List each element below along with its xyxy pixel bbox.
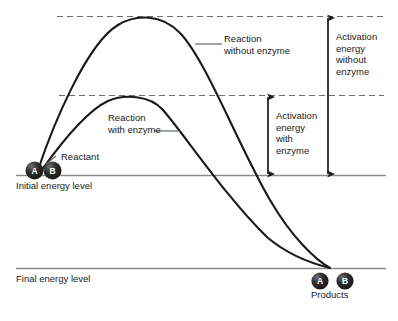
label-final-energy-level: Final energy level xyxy=(16,273,90,285)
enzyme-energy-diagram: A B A B Reaction without enzyme Reaction… xyxy=(0,0,398,321)
label-initial-energy-level: Initial energy level xyxy=(16,180,92,192)
transition-state-dashed-lines xyxy=(57,17,384,96)
product-molecule-b-label: B xyxy=(342,276,348,286)
label-activation-energy-without-enzyme: Activation energy without enzyme xyxy=(336,31,377,77)
reactant-molecule-b-label: B xyxy=(49,166,55,176)
product-molecules: A B xyxy=(311,272,353,289)
reactant-molecule-a-label: A xyxy=(31,166,37,176)
label-reaction-with-enzyme: Reaction with enzyme xyxy=(108,112,161,135)
product-molecule-a-label: A xyxy=(317,276,323,286)
label-products: Products xyxy=(311,289,349,301)
label-reaction-without-enzyme: Reaction without enzyme xyxy=(224,33,290,56)
label-activation-energy-with-enzyme: Activation energy with enzyme xyxy=(276,110,317,156)
leader-lines xyxy=(46,44,222,164)
reactant-molecules: A B xyxy=(26,162,62,180)
label-reactant: Reactant xyxy=(61,151,99,163)
